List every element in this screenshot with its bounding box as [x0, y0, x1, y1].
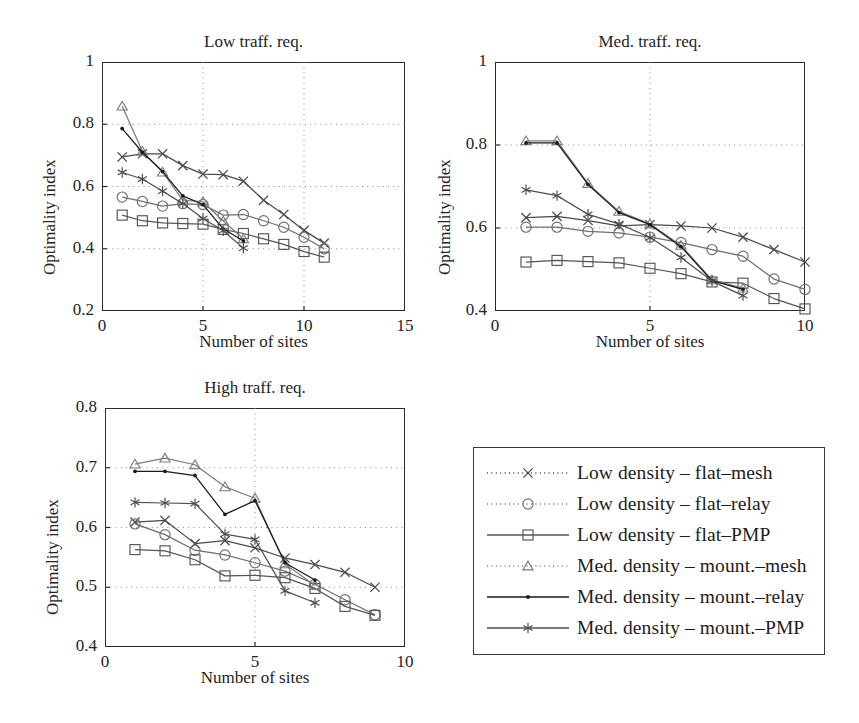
legend-marker-sample [485, 493, 571, 515]
x-marker [738, 233, 747, 242]
dot-marker [163, 469, 167, 473]
legend-marker-sample [485, 617, 571, 639]
ytick-label: 0.8 [40, 113, 94, 133]
dot-marker [242, 239, 246, 243]
dot-marker [253, 499, 257, 503]
series-line [135, 458, 315, 585]
dot-marker [648, 223, 652, 227]
ytick-label: 1 [40, 51, 94, 71]
legend-marker-sample [485, 524, 571, 546]
xtick-label: 15 [380, 316, 430, 336]
plot-canvas-high [105, 408, 405, 647]
legend-label: Low density – flat–PMP [577, 524, 770, 546]
legend: Low density – flat–meshLow density – fla… [473, 447, 825, 655]
dot-marker [193, 474, 197, 478]
dot-marker [679, 245, 683, 249]
ytick-label: 0.6 [40, 176, 94, 196]
asterisk-marker [310, 598, 319, 608]
ytick-label: 0.8 [43, 397, 97, 417]
chart-title-med: Med. traff. req. [495, 32, 805, 52]
legend-item[interactable]: Med. density – mount.–mesh [474, 550, 824, 581]
x-marker [370, 583, 379, 592]
dot-marker [524, 141, 528, 145]
chart-title-high: High traff. req. [105, 378, 405, 398]
xtick-label: 5 [625, 316, 675, 336]
dot-marker [201, 203, 205, 207]
legend-item[interactable]: Med. density – mount.–relay [474, 581, 824, 612]
x-marker [259, 196, 268, 205]
x-marker [178, 161, 187, 170]
x-marker [340, 568, 349, 577]
chart-title-low: Low traff. req. [102, 32, 405, 52]
dot-marker [120, 127, 124, 131]
series-line [526, 227, 805, 289]
ytick-label: 0.6 [43, 517, 97, 537]
ytick-label: 0.8 [433, 134, 487, 154]
plot-canvas-med [495, 62, 805, 311]
legend-item[interactable]: Med. density – mount.–PMP [474, 612, 824, 643]
xtick-label: 10 [780, 316, 830, 336]
legend-marker-sample [485, 586, 571, 608]
ytick-label: 0.7 [43, 457, 97, 477]
ytick-label: 0.6 [433, 217, 487, 237]
ytick-label: 0.5 [43, 576, 97, 596]
asterisk-marker [158, 186, 167, 196]
dot-marker [181, 194, 185, 198]
asterisk-marker [138, 174, 147, 184]
x-marker [239, 177, 248, 186]
series-line [526, 260, 805, 309]
legend-item[interactable]: Low density – flat–mesh [474, 457, 824, 488]
x-marker [800, 257, 809, 266]
xtick-label: 10 [279, 316, 329, 336]
legend-label: Med. density – mount.–PMP [577, 617, 804, 639]
series-line [135, 471, 315, 580]
xtick-label: 5 [230, 652, 280, 672]
legend-item[interactable]: Low density – flat–PMP [474, 519, 824, 550]
legend-label: Med. density – mount.–relay [577, 586, 804, 608]
dot-marker [161, 170, 165, 174]
circle-marker [130, 519, 140, 529]
legend-marker-sample [485, 555, 571, 577]
x-marker [769, 245, 778, 254]
dot-marker [617, 211, 621, 215]
x-marker [279, 210, 288, 219]
legend-label: Med. density – mount.–mesh [577, 555, 807, 577]
x-marker [310, 560, 319, 569]
ytick-label: 0.4 [40, 238, 94, 258]
dot-marker [555, 141, 559, 145]
asterisk-marker [118, 167, 127, 177]
dot-marker [526, 595, 530, 599]
asterisk-marker [614, 219, 623, 229]
xtick-label: 5 [178, 316, 228, 336]
ytick-label: 1 [433, 51, 487, 71]
axis-label-x-low: Number of sites [102, 332, 405, 352]
plot-canvas-low [102, 62, 405, 311]
legend-label: Low density – flat–mesh [577, 462, 773, 484]
dot-marker [586, 183, 590, 187]
xtick-label: 0 [470, 316, 520, 336]
xtick-label: 0 [77, 316, 127, 336]
xtick-label: 10 [380, 652, 430, 672]
dot-marker [133, 469, 137, 473]
dot-marker [313, 578, 317, 582]
triangle-marker [117, 101, 127, 110]
dot-marker [141, 150, 145, 154]
legend-label: Low density – flat–relay [577, 493, 771, 515]
asterisk-marker [239, 243, 248, 253]
asterisk-marker [676, 252, 685, 262]
dot-marker [283, 561, 287, 565]
legend-marker-sample [485, 462, 571, 484]
dot-marker [223, 512, 227, 516]
legend-item[interactable]: Low density – flat–relay [474, 488, 824, 519]
asterisk-marker [198, 213, 207, 223]
xtick-label: 0 [80, 652, 130, 672]
